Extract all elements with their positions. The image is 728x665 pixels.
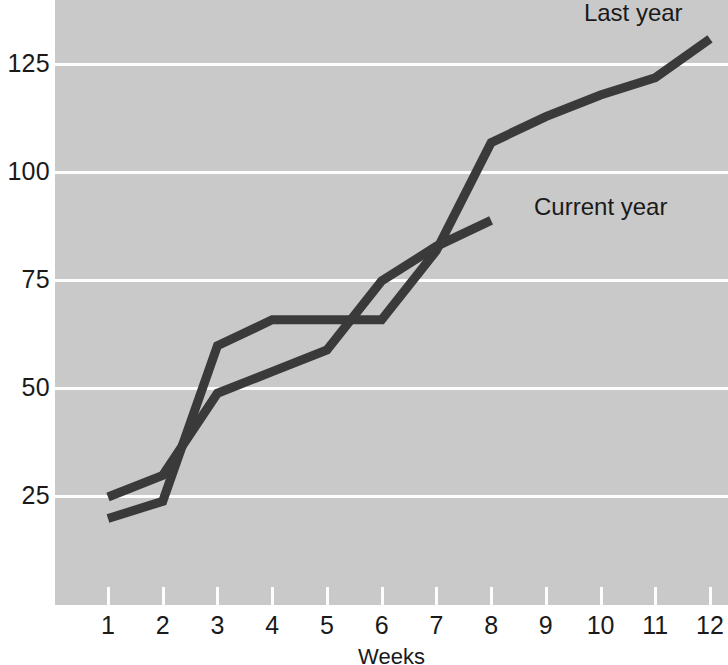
y-tick-label-25: 25 [2,483,50,508]
x-tick-label-7: 7 [416,611,456,639]
x-tick-label-8: 8 [471,611,511,639]
series-line-last-year [108,39,710,519]
x-tick-mark-4 [271,587,274,605]
x-tick-mark-10 [600,587,603,605]
y-tick-label-50: 50 [2,375,50,400]
x-tick-label-1: 1 [88,611,128,639]
series-label-last-year: Last year [584,0,683,26]
x-tick-mark-9 [545,587,548,605]
x-tick-mark-2 [162,587,165,605]
x-tick-label-12: 12 [690,611,728,639]
x-axis-title: Weeks [55,645,728,665]
x-axis: 123456789101112 Weeks [55,605,728,665]
y-axis: 255075100125 [0,0,50,605]
x-tick-label-6: 6 [362,611,402,639]
y-tick-label-75: 75 [2,267,50,292]
x-tick-mark-11 [654,587,657,605]
x-tick-mark-5 [326,587,329,605]
x-tick-mark-6 [381,587,384,605]
series-line-current-year [108,220,491,497]
x-tick-label-5: 5 [307,611,347,639]
line-chart: 255075100125 Last year Current year 1234… [0,0,728,665]
x-tick-label-11: 11 [635,611,675,639]
x-tick-label-4: 4 [252,611,292,639]
x-tick-mark-7 [435,587,438,605]
x-tick-label-3: 3 [197,611,237,639]
plot-area: Last year Current year [55,0,728,605]
y-tick-label-100: 100 [2,159,50,184]
series-label-current-year: Current year [534,194,667,220]
y-tick-label-125: 125 [2,51,50,76]
x-tick-label-10: 10 [581,611,621,639]
x-tick-mark-3 [216,587,219,605]
x-tick-mark-12 [709,587,712,605]
x-tick-mark-1 [107,587,110,605]
series-lines [55,0,728,605]
x-tick-label-9: 9 [526,611,566,639]
x-tick-label-2: 2 [143,611,183,639]
x-tick-mark-8 [490,587,493,605]
